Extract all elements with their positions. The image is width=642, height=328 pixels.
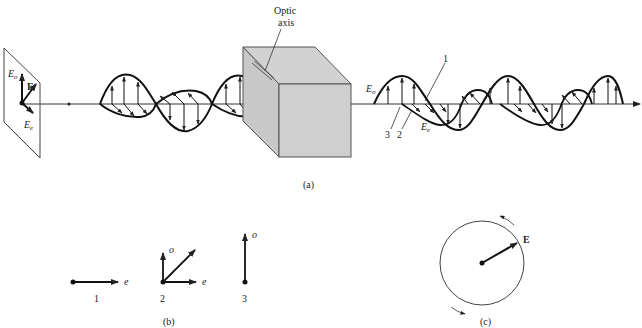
label-c-e: E — [523, 234, 530, 245]
label-e: E — [27, 81, 34, 92]
label-n1: 1 — [443, 53, 448, 64]
label-out-ee: Ee — [420, 121, 430, 134]
crystal-front-face — [279, 84, 351, 157]
panel-b: e 1 o e 2 o 3 (b) — [71, 229, 258, 328]
rotation-arrow-top-icon — [500, 216, 514, 225]
optic-label-line1: Optic — [274, 5, 297, 16]
axis-dot — [68, 103, 71, 106]
state3-number: 3 — [242, 293, 247, 304]
label-n3: 3 — [385, 129, 390, 140]
panel-a: Eo E Ee — [4, 5, 640, 191]
label-eo: Eo — [7, 68, 18, 81]
rotating-e-vector-icon — [482, 243, 517, 263]
caption-a: (a) — [303, 179, 314, 191]
birefringence-diagram: Eo E Ee — [0, 0, 642, 328]
rotation-arrow-bottom-icon — [451, 307, 465, 314]
optic-label-line2: axis — [278, 17, 294, 28]
birefringent-crystal: Optic axis — [243, 5, 351, 157]
caption-b: (b) — [163, 316, 175, 328]
state1-number: 1 — [94, 293, 99, 304]
label-ee: Ee — [23, 119, 33, 132]
label-n2: 2 — [397, 129, 402, 140]
panel-c: E (c) — [440, 216, 530, 328]
state2-e-label: e — [202, 276, 207, 287]
input-wave — [100, 74, 260, 131]
caption-c: (c) — [480, 316, 491, 328]
output-wave — [374, 63, 623, 130]
label-out-eo: Eo — [365, 83, 376, 96]
state3-o-label: o — [252, 229, 257, 240]
input-plane: Eo E Ee — [4, 48, 40, 158]
state2-o-label: o — [169, 244, 174, 255]
state1-e-label: e — [124, 276, 129, 287]
state2-diag-vector-icon — [163, 250, 195, 282]
state2-number: 2 — [160, 293, 165, 304]
